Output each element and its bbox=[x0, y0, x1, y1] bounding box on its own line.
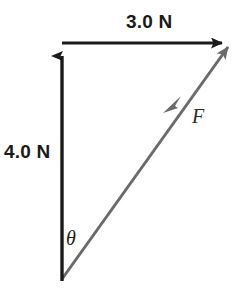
force-vector-diagram: 3.0 N 4.0 N θ F bbox=[0, 0, 240, 294]
vertical-component-label: 4.0 N bbox=[4, 142, 50, 161]
resultant-force-label: F bbox=[192, 106, 204, 126]
theta-angle-label: θ bbox=[66, 228, 76, 248]
resultant-force-vector bbox=[62, 47, 228, 279]
horizontal-component-label: 3.0 N bbox=[126, 12, 172, 31]
resultant-midpoint-arrowhead bbox=[163, 96, 181, 113]
